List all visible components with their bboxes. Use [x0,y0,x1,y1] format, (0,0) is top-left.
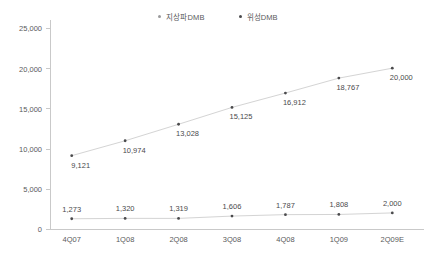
data-point[interactable] [391,212,394,215]
data-point-label: 1,319 [169,204,188,213]
data-point-label: 1,808 [329,200,348,209]
data-point[interactable] [337,77,340,80]
y-tick-label: 20,000 [19,65,42,74]
y-tick-label: 25,000 [19,24,42,33]
x-tick-label: 4Q07 [63,235,81,244]
data-point-label: 15,125 [230,112,253,121]
data-point-label: 1,606 [223,202,242,211]
data-point[interactable] [70,154,73,157]
data-point[interactable] [231,215,234,218]
y-axis: 05,00010,00015,00020,00025,000 [19,20,50,234]
y-tick-label: 10,000 [19,145,42,154]
data-point[interactable] [337,213,340,216]
data-point[interactable] [177,123,180,126]
data-point-label: 10,974 [123,146,146,155]
x-tick-label: 4Q08 [276,235,294,244]
data-point[interactable] [177,217,180,220]
x-tick-label: 2Q09E [381,235,404,244]
data-point[interactable] [124,217,127,220]
data-point-label: 1,320 [116,204,135,213]
y-tick-label: 0 [38,225,42,234]
data-point-label: 1,273 [62,205,81,214]
data-point-label: 9,121 [71,161,90,170]
data-point-label: 20,000 [390,73,413,82]
data-point[interactable] [284,92,287,95]
data-point[interactable] [231,106,234,109]
x-tick-label: 3Q08 [223,235,241,244]
data-point-label: 18,767 [336,83,359,92]
data-point-label: 1,787 [276,201,295,210]
data-point[interactable] [284,213,287,216]
chart-container: 지상파DMB 위성DMB 05,00010,00015,00020,00025,… [0,0,436,258]
data-point-label: 16,912 [283,98,306,107]
y-tick-label: 5,000 [23,185,42,194]
data-point[interactable] [124,139,127,142]
x-axis: 4Q071Q082Q083Q084Q081Q092Q09E [51,230,425,244]
x-tick-label: 1Q09 [330,235,348,244]
data-point[interactable] [391,67,394,70]
y-tick-label: 15,000 [19,105,42,114]
data-point[interactable] [70,217,73,220]
x-tick-label: 1Q08 [116,235,134,244]
data-point-label: 13,028 [176,129,199,138]
chart-plot-area: 05,00010,00015,00020,00025,000 4Q071Q082… [0,0,436,258]
x-tick-label: 2Q08 [169,235,187,244]
data-point-label: 2,000 [383,199,402,208]
